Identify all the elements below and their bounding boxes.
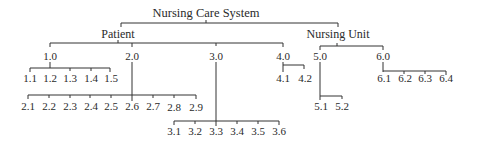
- node-3-0: 3.0: [209, 51, 223, 62]
- node-5-2: 5.2: [335, 101, 349, 112]
- node-2-2: 2.2: [42, 101, 56, 112]
- node-3-2: 3.2: [188, 126, 202, 137]
- node-6-4: 6.4: [439, 73, 453, 84]
- root-node-title: Nursing Care System: [153, 8, 260, 19]
- node-2-6: 2.6: [125, 101, 139, 112]
- node-3-4: 3.4: [230, 126, 244, 137]
- node-5-0: 5.0: [313, 51, 327, 62]
- node-1-2: 1.2: [43, 73, 57, 84]
- node-5-1: 5.1: [314, 101, 328, 112]
- node-4-1: 4.1: [276, 73, 290, 84]
- node-3-5: 3.5: [251, 126, 265, 137]
- node-2-7: 2.7: [146, 101, 160, 112]
- node-3-3: 3.3: [209, 126, 223, 137]
- node-2-8: 2.8: [167, 102, 181, 113]
- node-1-5: 1.5: [104, 73, 118, 84]
- node-2-9: 2.9: [189, 102, 203, 113]
- node-3-1: 3.1: [167, 126, 181, 137]
- node-6-1: 6.1: [377, 73, 391, 84]
- node-2-3: 2.3: [63, 101, 77, 112]
- node-2-0: 2.0: [125, 51, 139, 62]
- node-1-3: 1.3: [63, 73, 77, 84]
- node-6-2: 6.2: [398, 73, 412, 84]
- node-1-4: 1.4: [84, 73, 98, 84]
- node-4-0: 4.0: [276, 51, 290, 62]
- group-label-patient: Patient: [101, 29, 134, 40]
- node-6-0: 6.0: [376, 51, 390, 62]
- group-label-nursing-unit: Nursing Unit: [307, 29, 370, 40]
- node-2-1: 2.1: [21, 101, 35, 112]
- node-6-3: 6.3: [418, 73, 432, 84]
- node-2-5: 2.5: [104, 101, 118, 112]
- node-3-6: 3.6: [272, 126, 286, 137]
- node-2-4: 2.4: [84, 101, 98, 112]
- node-1-1: 1.1: [23, 73, 37, 84]
- node-1-0: 1.0: [43, 51, 57, 62]
- node-4-2: 4.2: [298, 73, 312, 84]
